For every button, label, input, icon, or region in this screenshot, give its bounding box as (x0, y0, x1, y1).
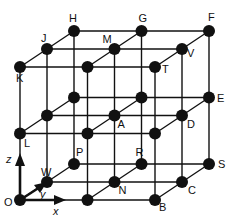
point-label-a: A (118, 118, 126, 130)
point-label-m: M (103, 33, 112, 45)
lattice-nodes (14, 25, 215, 206)
lattice-node (68, 92, 80, 104)
point-label-j: J (41, 32, 47, 44)
lattice-node (68, 158, 80, 170)
lattice-node (41, 110, 53, 122)
lattice-node (136, 92, 148, 104)
lattice-node (203, 158, 215, 170)
axes-arrows: z y x (5, 153, 66, 217)
point-label-o: O (4, 196, 13, 208)
axis-label-x: x (52, 205, 59, 217)
point-label-r: R (136, 146, 144, 158)
point-label-s: S (218, 158, 225, 170)
lattice-node (149, 128, 161, 140)
lattice-node (203, 25, 215, 37)
lattice-node (82, 194, 94, 206)
lattice-node (82, 61, 94, 73)
point-label-c: C (188, 184, 196, 196)
point-label-g: G (139, 12, 148, 24)
point-label-n: N (119, 184, 127, 196)
point-label-t: T (162, 63, 169, 75)
lattice-node (149, 61, 161, 73)
lattice-node (176, 176, 188, 188)
point-label-f: F (208, 11, 215, 23)
lattice-node (82, 128, 94, 140)
point-label-l: L (24, 137, 30, 149)
cubic-lattice-diagram: OBWNCPRSLADEKTJMVHGF z y x (0, 0, 233, 220)
point-label-b: B (159, 201, 166, 213)
lattice-node (68, 25, 80, 37)
point-label-h: H (69, 12, 77, 24)
point-label-v: V (187, 47, 195, 59)
axis-label-y: y (39, 188, 47, 200)
lattice-node (41, 43, 53, 55)
point-label-d: D (187, 118, 195, 130)
point-label-p: P (76, 146, 83, 158)
lattice-node (136, 25, 148, 37)
axis-label-z: z (5, 153, 12, 165)
lattice-node (203, 92, 215, 104)
lattice-node (136, 158, 148, 170)
point-label-e: E (217, 92, 224, 104)
point-label-k: K (16, 72, 24, 84)
point-label-w: W (41, 166, 52, 178)
